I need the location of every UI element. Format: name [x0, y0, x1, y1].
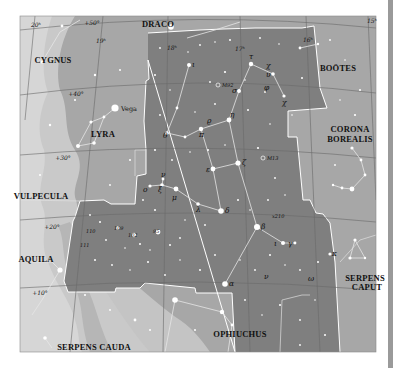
- svg-text:κ: κ: [331, 249, 337, 258]
- svg-text:102: 102: [128, 232, 138, 238]
- svg-text:x210: x210: [272, 213, 285, 219]
- svg-text:95: 95: [153, 228, 159, 234]
- svg-text:χ: χ: [265, 61, 271, 70]
- star-chart: DRACO CYGNUS BOÖTES LYRA CORONA BOREALIS…: [0, 0, 396, 368]
- svg-text:M92: M92: [221, 82, 233, 88]
- svg-text:o: o: [143, 185, 148, 194]
- svg-text:+40°: +40°: [68, 90, 84, 97]
- svg-text:λ: λ: [195, 205, 201, 214]
- label-draco: DRACO: [142, 19, 174, 29]
- svg-text:α: α: [229, 279, 234, 288]
- svg-text:γ: γ: [288, 239, 293, 248]
- svg-text:β: β: [260, 222, 266, 231]
- svg-text:111: 111: [80, 242, 90, 248]
- label-cygnus: CYGNUS: [34, 55, 71, 65]
- svg-text:109: 109: [114, 225, 124, 231]
- svg-text:δ: δ: [225, 206, 230, 215]
- label-aquila: AQUILA: [18, 254, 54, 264]
- svg-text:υ: υ: [266, 70, 271, 79]
- label-bootes: BOÖTES: [320, 63, 356, 73]
- svg-text:19ʰ: 19ʰ: [96, 37, 107, 44]
- svg-text:ν: ν: [161, 170, 166, 179]
- svg-text:16ʰ: 16ʰ: [303, 36, 314, 43]
- svg-text:+10°: +10°: [32, 289, 48, 296]
- scrollbar[interactable]: [388, 0, 393, 368]
- label-serpens-cauda: SERPENS CAUDA: [57, 342, 131, 352]
- svg-text:η: η: [230, 110, 235, 119]
- svg-text:φ: φ: [264, 83, 270, 92]
- svg-text:ω: ω: [308, 274, 314, 283]
- label-corona: CORONA: [331, 124, 371, 134]
- svg-text:+30°: +30°: [55, 154, 71, 161]
- svg-text:ι: ι: [192, 60, 195, 69]
- svg-text:ε: ε: [206, 165, 210, 174]
- svg-text:+50°: +50°: [84, 19, 100, 26]
- label-caput: CAPUT: [352, 282, 382, 292]
- svg-text:ϱ: ϱ: [207, 116, 212, 125]
- svg-text:18ʰ: 18ʰ: [167, 44, 178, 51]
- svg-text:+20°: +20°: [44, 223, 60, 230]
- svg-text:M13: M13: [266, 155, 278, 161]
- svg-text:20ʰ: 20ʰ: [30, 21, 42, 28]
- label-vulpecula: VULPECULA: [14, 191, 69, 201]
- label-lyra: LYRA: [91, 129, 116, 139]
- svg-text:θ: θ: [163, 131, 168, 140]
- svg-text:17ʰ: 17ʰ: [235, 45, 246, 52]
- label-ophiuchus: OPHIUCHUS: [213, 329, 266, 339]
- svg-text:110: 110: [86, 228, 96, 234]
- label-borealis: BOREALIS: [327, 134, 373, 144]
- svg-text:μ: μ: [172, 193, 177, 202]
- svg-text:15ʰ: 15ʰ: [367, 17, 378, 24]
- svg-text:ν: ν: [264, 272, 269, 281]
- svg-text:ι: ι: [274, 239, 277, 248]
- svg-text:χ: χ: [281, 98, 287, 107]
- svg-text:Vega: Vega: [120, 105, 137, 113]
